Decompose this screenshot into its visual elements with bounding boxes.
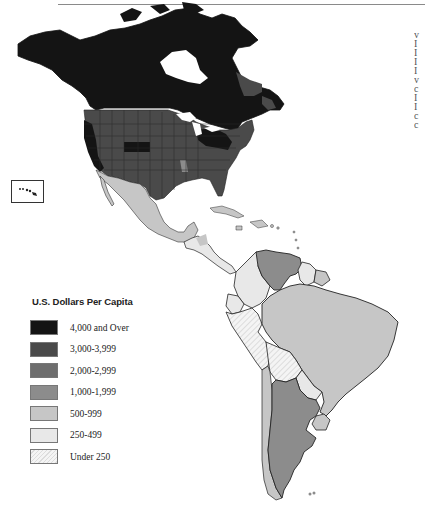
legend: U.S. Dollars Per Capita 4,000 and Over 3… [30,296,133,468]
legend-item: 1,000-1,999 [30,382,133,404]
region-us-plains [124,142,150,152]
edge-char: c [414,84,425,93]
edge-char: I [414,39,425,48]
legend-swatch [30,363,58,378]
legend-label: 3,000-3,999 [70,344,116,354]
edge-char: I [414,48,425,57]
caribbean-islands [210,206,299,249]
falkland-islands [309,492,316,496]
legend-item: 3,000-3,999 [30,339,133,361]
legend-swatch [30,428,58,443]
edge-char: v [414,30,425,39]
region-guianas [298,262,316,286]
legend-item: 500-999 [30,403,133,425]
legend-swatch [30,342,58,357]
region-central-america [184,236,236,274]
edge-char: v [414,75,425,84]
legend-swatch-hatched [30,449,58,464]
region-suriname [314,270,330,286]
legend-label: 500-999 [70,409,102,419]
legend-title: U.S. Dollars Per Capita [32,296,133,307]
legend-item: Under 250 [30,446,133,468]
legend-label: 250-499 [70,430,102,440]
legend-swatch [30,320,58,335]
legend-label: 1,000-1,999 [70,387,116,397]
edge-char: I [414,102,425,111]
edge-char: I [414,93,425,102]
legend-swatch [30,406,58,421]
legend-item: 2,000-2,999 [30,360,133,382]
hawaii-islands-icon [12,181,43,202]
edge-char: c [414,120,425,129]
edge-char: I [414,66,425,75]
legend-label: 4,000 and Over [70,323,129,333]
edge-char: I [414,57,425,66]
legend-item: 4,000 and Over [30,317,133,339]
legend-item: 250-499 [30,425,133,447]
legend-label: Under 250 [70,452,110,462]
hawaii-inset [11,180,44,203]
legend-swatch [30,385,58,400]
legend-label: 2,000-2,999 [70,366,116,376]
edge-char: c [414,111,425,120]
cropped-edge-text: v I I I I v c I I c c [414,30,425,129]
